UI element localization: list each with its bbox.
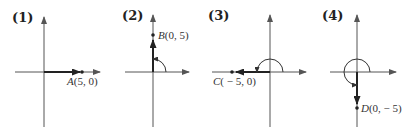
panel-4: (4) D(0, − 5) [322, 8, 402, 127]
point-c-label: C( − 5, 0) [213, 75, 256, 88]
point-d [355, 106, 359, 110]
rotation-diagram: (1) A(5, 0) (2) B(0, 5) (3) C( − 5, 0) (… [0, 0, 407, 137]
panel-number-2: (2) [122, 8, 143, 23]
panel-1: (1) A(5, 0) [12, 10, 100, 127]
panel-number-1: (1) [12, 10, 33, 25]
point-b [151, 33, 155, 37]
point-a [80, 70, 84, 74]
panel-3: (3) C( − 5, 0) [208, 8, 306, 127]
panel-number-3: (3) [208, 8, 229, 23]
point-a-label: A(5, 0) [66, 75, 98, 88]
point-c [230, 70, 234, 74]
panel-number-4: (4) [322, 8, 343, 23]
point-b-label: B(0, 5) [158, 29, 189, 42]
rotation-arc-90 [153, 59, 166, 72]
point-d-label: D(0, − 5) [360, 102, 402, 115]
panel-2: (2) B(0, 5) [122, 8, 189, 127]
